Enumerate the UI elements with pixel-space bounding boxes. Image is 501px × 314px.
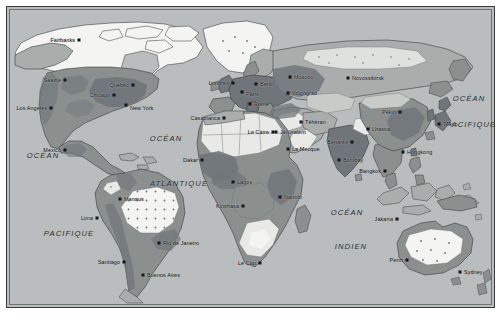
city-dot-buenos-aires[interactable]: [142, 274, 145, 277]
city-dot-sydney[interactable]: [459, 271, 462, 274]
city-dot-perth[interactable]: [406, 259, 409, 262]
city-label-rio-de-janeiro: Rio de Janeiro: [163, 240, 199, 246]
city-label-lima: Lima: [81, 215, 93, 221]
city-dot-la-mecque[interactable]: [287, 148, 290, 151]
city-dot-new-york[interactable]: [125, 104, 128, 107]
city-dot-santiago[interactable]: [123, 261, 126, 264]
ocean-label-ocean-pacifique-ouest-1: OCÉAN: [453, 94, 486, 103]
city-dot-moscou[interactable]: [289, 76, 292, 79]
ocean-label-ocean-atlantique-2: ATLANTIQUE: [150, 179, 208, 188]
ocean-label-ocean-pacifique-est-haut-2: PACIFIQUE: [44, 229, 94, 238]
world-map-figure: OCÉANPACIFIQUEOCÉANATLANTIQUEOCÉANINDIEN…: [0, 0, 501, 314]
city-dot-lhassa[interactable]: [367, 128, 370, 131]
city-dot-mexico[interactable]: [64, 149, 67, 152]
city-label-chicago: Chicago: [90, 92, 110, 98]
city-label-santiago: Santiago: [98, 259, 120, 265]
city-label-teheran: Téhéran: [305, 119, 326, 125]
city-label-los-angeles: Los Angeles: [17, 105, 47, 111]
city-label-lagos: Lagos: [237, 179, 252, 185]
city-label-perth: Perth: [390, 257, 403, 263]
city-dot-rio-de-janeiro[interactable]: [158, 242, 161, 245]
city-dot-bangkok[interactable]: [384, 170, 387, 173]
city-dot-chicago[interactable]: [113, 94, 116, 97]
city-label-lhassa: Lhassa: [372, 126, 390, 132]
city-dot-lima[interactable]: [96, 217, 99, 220]
city-label-manaus: Manaus: [124, 196, 144, 202]
city-label-la-mecque: La Mecque: [292, 146, 320, 152]
city-label-le-caire: Le Caire: [248, 129, 269, 135]
city-dot-fairbanks[interactable]: [78, 39, 81, 42]
city-dot-quebec[interactable]: [132, 84, 135, 87]
city-dot-jerusalem[interactable]: [275, 131, 278, 134]
city-label-berlin: Berlin: [260, 81, 274, 87]
city-dot-seattle[interactable]: [64, 79, 67, 82]
city-dot-le-cap[interactable]: [259, 262, 262, 265]
city-dot-los-angeles[interactable]: [50, 107, 53, 110]
city-dot-bombay[interactable]: [338, 159, 341, 162]
city-dot-novossibirsk[interactable]: [347, 77, 350, 80]
city-label-jakarta: Jakarta: [375, 216, 393, 222]
city-label-sydney: Sydney: [464, 269, 483, 275]
city-label-volgograd: Volgograd: [292, 90, 317, 96]
city-dot-casablanca[interactable]: [223, 117, 226, 120]
city-dot-nairobi[interactable]: [279, 196, 282, 199]
city-label-londres: Londres: [209, 80, 229, 86]
city-dot-londres[interactable]: [232, 82, 235, 85]
city-label-mexico: Mexico: [43, 147, 61, 153]
city-dot-paris[interactable]: [241, 91, 244, 94]
map-frame: OCÉANPACIFIQUEOCÉANATLANTIQUEOCÉANINDIEN…: [6, 6, 495, 308]
city-dot-berlin[interactable]: [255, 83, 258, 86]
city-dot-kinshasa[interactable]: [242, 205, 245, 208]
ocean-label-ocean-indien-2: INDIEN: [335, 242, 367, 251]
city-label-fairbanks: Fairbanks: [50, 37, 75, 43]
city-label-buenos-aires: Buenos Aires: [147, 272, 180, 278]
city-dot-hongkong[interactable]: [402, 151, 405, 154]
city-label-le-cap: Le Cap: [238, 260, 256, 266]
city-label-tokyo: Tokyo: [443, 121, 458, 127]
city-label-bombay: Bombay: [343, 157, 363, 163]
city-dot-dakar[interactable]: [201, 159, 204, 162]
city-label-hongkong: Hongkong: [407, 149, 432, 155]
city-label-quebec: Québec: [110, 82, 129, 88]
city-label-dakar: Dakar: [183, 157, 198, 163]
city-label-benares: Bénarès: [327, 139, 348, 145]
city-dot-lagos[interactable]: [232, 181, 235, 184]
ocean-label-ocean-indien-1: OCÉAN: [331, 208, 364, 217]
city-label-new-york: New York: [130, 105, 154, 111]
city-dot-benares[interactable]: [351, 141, 354, 144]
city-label-moscou: Moscou: [294, 74, 313, 80]
ocean-label-ocean-atlantique-1: OCÉAN: [150, 134, 183, 143]
city-label-nairobi: Nairobi: [284, 194, 302, 200]
city-label-novossibirsk: Novossibirsk: [352, 75, 384, 81]
city-label-paris: Paris: [246, 91, 259, 97]
city-dot-pekin[interactable]: [399, 111, 402, 114]
city-label-pekin: Pékin: [382, 109, 396, 115]
city-dot-volgograd[interactable]: [287, 92, 290, 95]
city-label-seattle: Seattle: [44, 77, 61, 83]
city-dot-manaus[interactable]: [119, 198, 122, 201]
city-dot-tokyo[interactable]: [438, 123, 441, 126]
city-label-bangkok: Bangkok: [359, 168, 381, 174]
city-dot-jakarta[interactable]: [396, 218, 399, 221]
city-dot-teheran[interactable]: [300, 121, 303, 124]
city-label-kinshasa: Kinshasa: [216, 203, 239, 209]
city-label-rome: Rome: [254, 101, 269, 107]
city-label-jerusalem: Jérusalem: [280, 129, 306, 135]
city-dot-rome[interactable]: [249, 103, 252, 106]
city-label-casablanca: Casablanca: [191, 115, 220, 121]
